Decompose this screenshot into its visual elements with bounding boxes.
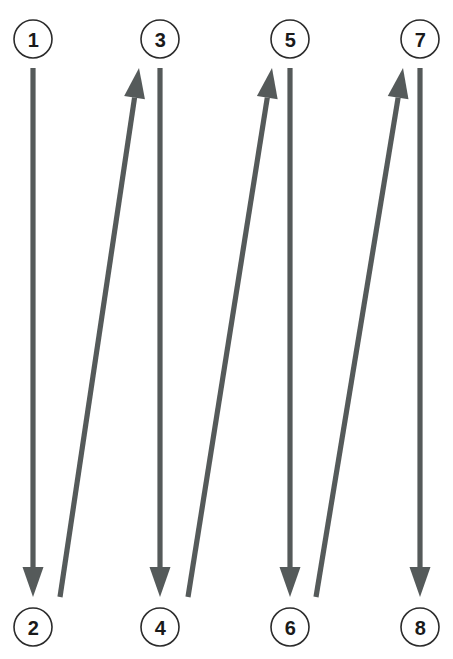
node-2[interactable]: 2 xyxy=(14,608,52,646)
edge-1-to-2 xyxy=(23,68,44,597)
arrowhead-up-icon xyxy=(124,68,145,99)
node-8[interactable]: 8 xyxy=(401,608,439,646)
arrowhead-down-icon xyxy=(280,567,301,597)
serpentine-path-diagram: 12345678 xyxy=(0,0,453,659)
edge-6-to-7 xyxy=(316,68,408,597)
node-1[interactable]: 1 xyxy=(14,20,52,58)
node-6[interactable]: 6 xyxy=(271,608,309,646)
node-7[interactable]: 7 xyxy=(401,20,439,58)
node-5[interactable]: 5 xyxy=(271,20,309,58)
node-label: 8 xyxy=(415,617,426,639)
arrowhead-up-icon xyxy=(257,68,278,99)
edge-7-to-8 xyxy=(410,68,431,597)
arrowhead-down-icon xyxy=(23,567,44,597)
edges-layer xyxy=(23,68,431,597)
arrowhead-down-icon xyxy=(150,567,171,597)
arrowhead-up-icon xyxy=(388,68,409,99)
edge-shaft xyxy=(60,98,135,597)
edge-shaft xyxy=(188,98,267,597)
edge-3-to-4 xyxy=(150,68,171,597)
node-label: 2 xyxy=(28,617,39,639)
edge-4-to-5 xyxy=(188,68,278,597)
edge-5-to-6 xyxy=(280,68,301,597)
edge-2-to-3 xyxy=(60,68,145,597)
node-label: 4 xyxy=(155,617,167,639)
node-4[interactable]: 4 xyxy=(141,608,179,646)
node-label: 7 xyxy=(415,29,426,51)
nodes-layer: 12345678 xyxy=(14,20,439,646)
node-label: 3 xyxy=(155,29,166,51)
node-3[interactable]: 3 xyxy=(141,20,179,58)
arrowhead-down-icon xyxy=(410,567,431,597)
node-label: 6 xyxy=(285,617,296,639)
node-label: 5 xyxy=(285,29,296,51)
diagram-canvas: 12345678 xyxy=(0,0,453,659)
node-label: 1 xyxy=(28,29,39,51)
edge-shaft xyxy=(316,98,398,597)
